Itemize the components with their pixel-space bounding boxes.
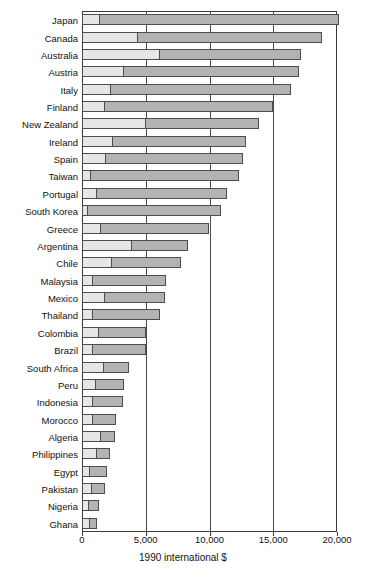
bar-row <box>82 257 337 268</box>
category-label-new-zealand: New Zealand <box>0 119 78 130</box>
bar-segment-dark <box>96 188 227 199</box>
bar-row <box>82 170 337 181</box>
bar-row <box>82 344 337 355</box>
bar-segment-dark <box>104 292 165 303</box>
bar-segment-dark <box>112 136 247 147</box>
bar-segment-light <box>82 153 106 164</box>
bar-segment-dark <box>95 379 124 390</box>
category-label-algeria: Algeria <box>0 432 78 443</box>
bar-segment-dark <box>100 431 115 442</box>
bar-row <box>82 223 337 234</box>
category-label-mexico: Mexico <box>0 293 78 304</box>
x-tick-mark-5000 <box>146 532 147 536</box>
category-label-thailand: Thailand <box>0 310 78 321</box>
bar-row <box>82 379 337 390</box>
category-label-nigeria: Nigeria <box>0 501 78 512</box>
x-tick-mark-0 <box>82 532 83 536</box>
category-axis-labels: JapanCanadaAustraliaAustriaItalyFinlandN… <box>0 11 78 532</box>
bar-row <box>82 448 337 459</box>
bar-row <box>82 518 337 529</box>
bar-segment-dark <box>131 240 188 251</box>
category-label-peru: Peru <box>0 380 78 391</box>
category-label-brazil: Brazil <box>0 345 78 356</box>
bar-segment-dark <box>123 66 299 77</box>
bar-row <box>82 500 337 511</box>
category-label-australia: Australia <box>0 50 78 61</box>
bar-row <box>82 275 337 286</box>
category-label-greece: Greece <box>0 224 78 235</box>
bar-segment-dark <box>92 414 116 425</box>
bar-segment-light <box>82 188 97 199</box>
bar-segment-dark <box>99 14 338 25</box>
bar-segment-light <box>82 292 105 303</box>
bar-segment-light <box>82 240 132 251</box>
bar-segment-dark <box>96 448 110 459</box>
category-label-pakistan: Pakistan <box>0 484 78 495</box>
bar-row <box>82 396 337 407</box>
bar-segment-light <box>82 101 105 112</box>
bar-segment-light <box>82 136 113 147</box>
bar-segment-dark <box>104 101 273 112</box>
bar-segment-dark <box>98 327 146 338</box>
bar-row <box>82 136 337 147</box>
bar-row <box>82 84 337 95</box>
category-label-spain: Spain <box>0 154 78 165</box>
category-label-austria: Austria <box>0 67 78 78</box>
category-label-indonesia: Indonesia <box>0 397 78 408</box>
bar-row <box>82 153 337 164</box>
bar-row <box>82 414 337 425</box>
bar-row <box>82 101 337 112</box>
category-label-egypt: Egypt <box>0 467 78 478</box>
bar-row <box>82 327 337 338</box>
bar-row <box>82 66 337 77</box>
bar-segment-light <box>82 49 160 60</box>
bar-rows <box>82 11 337 532</box>
x-axis-tick-labels: 05,00010,00015,00020,000 <box>0 534 366 554</box>
bar-segment-dark <box>89 466 107 477</box>
bar-row <box>82 292 337 303</box>
bar-segment-dark <box>90 170 239 181</box>
bar-segment-dark <box>91 483 105 494</box>
bar-row <box>82 14 337 25</box>
bar-segment-light <box>82 14 100 25</box>
bar-segment-dark <box>92 344 145 355</box>
bar-segment-light <box>82 448 97 459</box>
bar-chart: JapanCanadaAustraliaAustriaItalyFinlandN… <box>0 0 366 580</box>
bar-segment-light <box>82 84 111 95</box>
bar-row <box>82 309 337 320</box>
category-label-south-korea: South Korea <box>0 206 78 217</box>
category-label-canada: Canada <box>0 33 78 44</box>
bar-segment-dark <box>137 32 322 43</box>
category-label-taiwan: Taiwan <box>0 171 78 182</box>
bar-segment-light <box>82 257 112 268</box>
category-label-south-africa: South Africa <box>0 363 78 374</box>
bar-segment-dark <box>88 500 99 511</box>
bar-segment-light <box>82 118 146 129</box>
bar-segment-light <box>82 431 101 442</box>
bar-row <box>82 362 337 373</box>
category-label-chile: Chile <box>0 258 78 269</box>
bar-segment-dark <box>87 205 221 216</box>
bar-row <box>82 32 337 43</box>
bar-segment-dark <box>92 309 161 320</box>
bar-segment-dark <box>111 257 181 268</box>
category-label-colombia: Colombia <box>0 328 78 339</box>
bar-segment-dark <box>100 223 209 234</box>
bar-row <box>82 49 337 60</box>
bar-segment-light <box>82 32 138 43</box>
x-tick-mark-10000 <box>210 532 211 536</box>
category-label-argentina: Argentina <box>0 241 78 252</box>
bar-row <box>82 431 337 442</box>
bar-segment-dark <box>103 362 129 373</box>
x-axis-title: 1990 international $ <box>0 552 366 563</box>
category-label-ghana: Ghana <box>0 519 78 530</box>
bar-segment-dark <box>110 84 291 95</box>
bar-row <box>82 205 337 216</box>
bar-row <box>82 483 337 494</box>
bar-row <box>82 240 337 251</box>
bar-segment-dark <box>92 275 165 286</box>
bar-segment-dark <box>89 518 98 529</box>
x-tick-mark-20000 <box>337 532 338 536</box>
bar-segment-light <box>82 66 124 77</box>
bar-row <box>82 466 337 477</box>
